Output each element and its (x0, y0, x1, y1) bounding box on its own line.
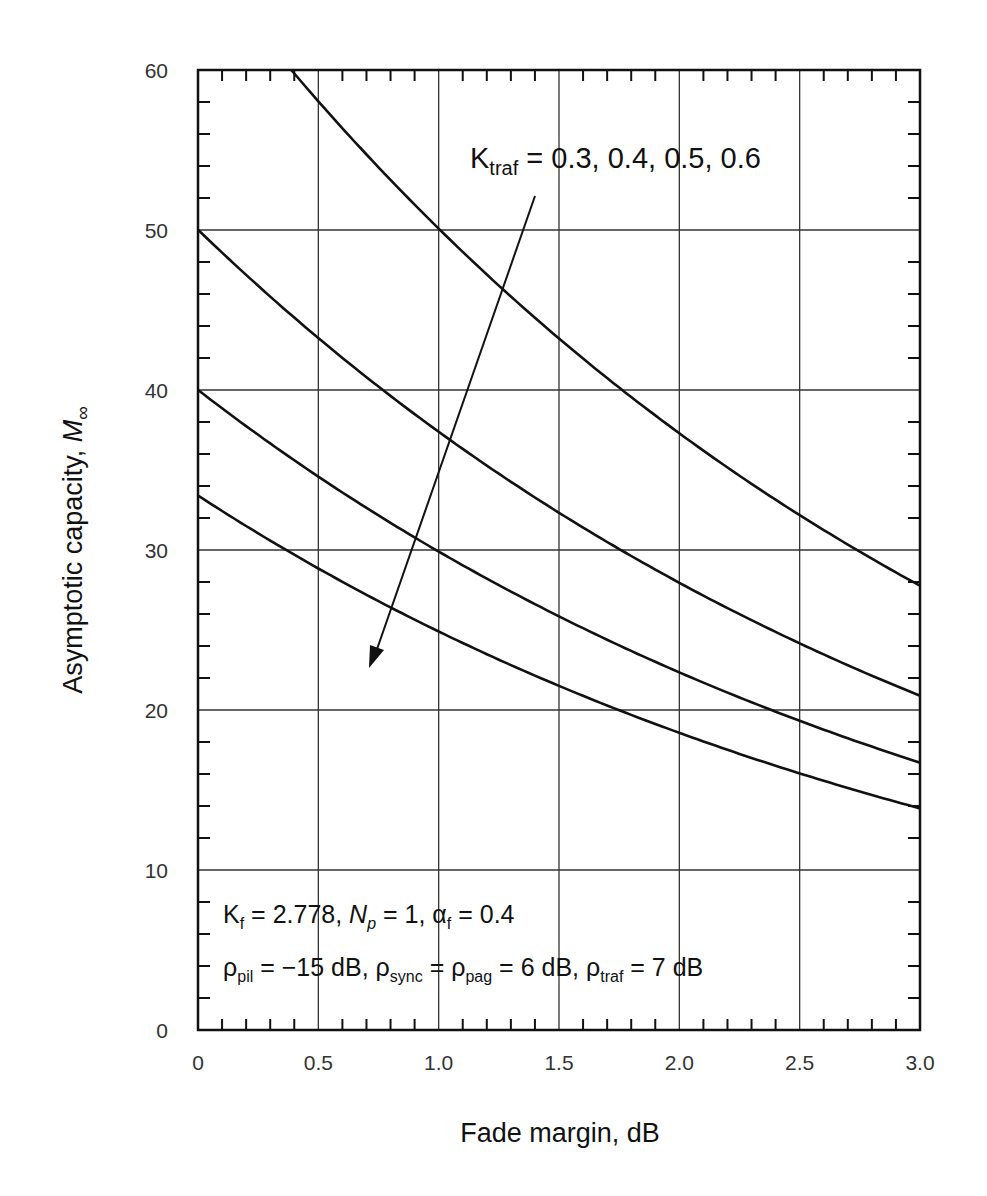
ktraf-arrow (369, 196, 535, 668)
x-tick-label: 1.5 (544, 1051, 573, 1074)
x-tick-label: 0 (192, 1051, 204, 1074)
y-tick-label: 40 (145, 379, 168, 402)
x-tick-labels: 00.51.01.52.02.53.0 (192, 1051, 934, 1074)
gridlines (198, 70, 920, 1030)
y-tick-label: 10 (145, 859, 168, 882)
params-line-1: Kf = 2.778, Np = 1, αf = 0.4 (223, 900, 515, 932)
chart: 00.51.01.52.02.53.0 0102030405060 Ktraf … (0, 0, 987, 1196)
y-tick-labels: 0102030405060 (145, 59, 168, 1042)
x-tick-label: 2.0 (665, 1051, 694, 1074)
y-tick-label: 60 (145, 59, 168, 82)
arrowhead-icon (369, 645, 384, 668)
y-tick-label: 20 (145, 699, 168, 722)
x-tick-label: 0.5 (304, 1051, 333, 1074)
y-tick-label: 30 (145, 539, 168, 562)
y-tick-label: 0 (156, 1019, 168, 1042)
ktraf-annotation: Ktraf = 0.3, 0.4, 0.5, 0.6 (470, 142, 761, 179)
x-tick-label: 1.0 (424, 1051, 453, 1074)
x-axis-title: Fade margin, dB (460, 1118, 660, 1148)
x-tick-label: 2.5 (785, 1051, 814, 1074)
y-tick-label: 50 (145, 219, 168, 242)
x-tick-label: 3.0 (905, 1051, 934, 1074)
y-axis-title: Asymptotic capacity, M∞ (58, 406, 93, 694)
params-line-2: ρpil = −15 dB, ρsync = ρpag = 6 dB, ρtra… (223, 953, 703, 985)
